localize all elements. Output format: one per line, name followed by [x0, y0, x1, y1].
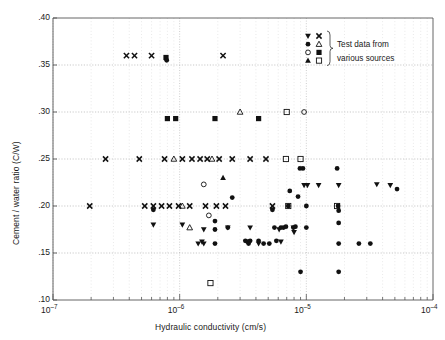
legend-caption-line2: various sources: [337, 54, 394, 63]
data-point-filled-circle: [293, 224, 298, 229]
x-axis-label: Hydraulic conductivity (cm/s): [155, 322, 266, 332]
data-point-cross: [132, 53, 137, 58]
data-point-filled-circle: [336, 204, 341, 209]
data-point-filled-circle: [230, 195, 235, 200]
data-point-cross: [180, 156, 185, 161]
data-point-filled-circle: [304, 204, 309, 209]
data-point-filled-down-triangle: [336, 183, 342, 188]
legend-marker-filled-square: [316, 50, 321, 55]
data-point-filled-square: [173, 116, 178, 121]
data-point-cross: [220, 53, 225, 58]
data-point-filled-circle: [296, 194, 301, 199]
data-point-filled-circle: [284, 224, 289, 229]
x-tick-label: 10–7: [41, 305, 57, 315]
data-point-open-square: [208, 280, 213, 285]
data-point-filled-square: [165, 116, 170, 121]
data-point-filled-down-triangle: [151, 223, 157, 228]
y-axis-label: Cement / water ratio (C/W): [11, 141, 21, 245]
scatter-plot-canvas: [0, 0, 445, 340]
data-point-open-up-triangle: [187, 225, 193, 230]
y-tick-label: .15: [30, 247, 50, 257]
data-point-filled-circle: [335, 166, 340, 171]
legend-marker-filled-circle: [306, 42, 311, 47]
data-point-filled-down-triangle: [278, 240, 284, 245]
y-tick-label: .35: [30, 59, 50, 69]
series-open-square: [208, 109, 340, 285]
legend-marker-open-square: [316, 58, 321, 63]
data-point-open-circle: [201, 182, 206, 187]
data-point-filled-circle: [256, 238, 261, 243]
data-point-filled-down-triangle: [387, 183, 393, 188]
data-point-filled-circle: [286, 204, 291, 209]
data-point-filled-square: [212, 116, 217, 121]
data-point-filled-circle: [213, 227, 218, 232]
data-point-cross: [87, 203, 92, 208]
legend-markers: [305, 31, 333, 66]
data-point-filled-down-triangle: [201, 227, 207, 232]
series-filled-down-triangle: [151, 182, 394, 246]
data-point-filled-circle: [304, 225, 309, 230]
data-point-filled-circle: [261, 241, 266, 246]
x-tick-label: 10–6: [168, 305, 184, 315]
data-point-filled-circle: [164, 58, 169, 63]
data-point-filled-circle: [336, 241, 341, 246]
data-point-filled-circle: [213, 241, 218, 246]
data-point-filled-circle: [357, 241, 362, 246]
data-point-filled-circle: [368, 241, 373, 246]
data-point-open-up-triangle: [171, 156, 177, 161]
series-open-up-triangle: [171, 109, 243, 230]
data-point-filled-circle: [301, 166, 306, 171]
x-tick-label: 10–4: [421, 305, 437, 315]
data-point-filled-circle: [274, 238, 279, 243]
data-point-filled-circle: [336, 269, 341, 274]
data-point-filled-circle: [151, 207, 156, 212]
legend-brace: [327, 31, 333, 66]
series-filled-up-triangle: [220, 175, 226, 180]
data-point-filled-circle: [287, 189, 292, 194]
legend-marker-cross: [316, 33, 321, 38]
data-point-filled-down-triangle: [247, 225, 253, 230]
series-filled-circle: [151, 58, 399, 274]
series-cross: [87, 53, 275, 209]
data-point-filled-down-triangle: [316, 183, 322, 188]
data-point-cross: [217, 156, 222, 161]
data-point-filled-down-triangle: [291, 230, 297, 235]
y-tick-label: .20: [30, 200, 50, 210]
data-point-filled-circle: [395, 187, 400, 192]
data-point-filled-circle: [270, 207, 275, 212]
data-point-filled-circle: [336, 221, 341, 226]
data-point-cross: [124, 53, 129, 58]
y-tick-label: .10: [30, 294, 50, 304]
data-point-filled-down-triangle: [195, 241, 201, 246]
data-point-filled-down-triangle: [374, 182, 380, 187]
data-point-filled-circle: [272, 225, 277, 230]
data-point-open-circle: [206, 213, 211, 218]
legend-caption-line1: Test data from: [337, 40, 389, 49]
data-point-filled-circle: [213, 219, 218, 224]
y-tick-label: .40: [30, 12, 50, 22]
x-tick-label: 10–5: [294, 305, 310, 315]
data-point-filled-up-triangle: [220, 175, 226, 180]
data-point-filled-down-triangle: [179, 223, 185, 228]
data-point-filled-circle: [298, 269, 303, 274]
y-tick-label: .30: [30, 106, 50, 116]
chart-figure: Cement / water ratio (C/W) Hydraulic con…: [0, 0, 445, 340]
series-open-circle: [201, 110, 306, 218]
y-tick-label: .25: [30, 153, 50, 163]
data-points-layer: [87, 53, 399, 286]
legend-marker-open-up-triangle: [316, 41, 322, 46]
data-point-filled-circle: [267, 241, 272, 246]
data-point-filled-circle: [248, 238, 253, 243]
data-point-filled-square: [256, 116, 261, 121]
data-point-filled-circle: [336, 208, 341, 213]
data-point-filled-circle: [225, 225, 230, 230]
